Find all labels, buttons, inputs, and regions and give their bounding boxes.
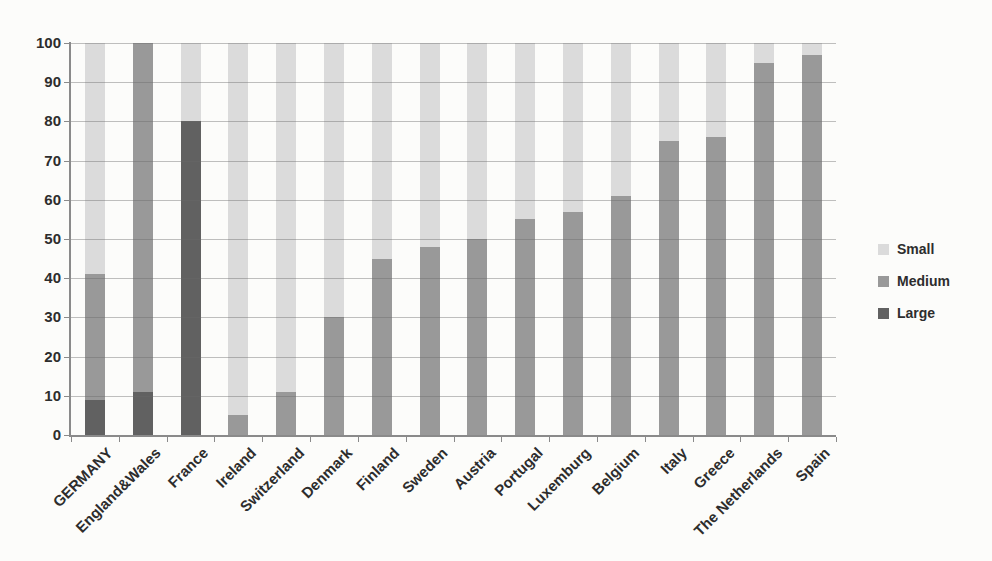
bar-segment-small <box>802 43 822 55</box>
bar-segment-medium <box>802 55 822 435</box>
y-axis-line <box>69 42 71 437</box>
gridline-y-60 <box>71 200 836 201</box>
x-axis-tick <box>167 437 168 442</box>
gridline-y-40 <box>71 278 836 279</box>
x-category-label: The Netherlands <box>690 444 785 539</box>
legend-swatch-icon <box>878 276 889 287</box>
bar-segment-large <box>133 392 153 435</box>
bar-segment-small <box>754 43 774 63</box>
x-axis-tick <box>836 437 837 442</box>
bar-segment-medium <box>659 141 679 435</box>
x-category-label: Italy <box>656 444 689 477</box>
x-axis-tick <box>406 437 407 442</box>
plot-area <box>71 43 836 435</box>
y-axis-tick-label: 70 <box>0 152 61 170</box>
y-axis-tick-label: 30 <box>0 308 61 326</box>
y-axis-tick-label: 80 <box>0 112 61 130</box>
gridline-y-100 <box>71 43 836 44</box>
bar-segment-small <box>372 43 392 259</box>
x-axis-tick <box>788 437 789 442</box>
x-axis-tick <box>597 437 598 442</box>
legend-item-large: Large <box>878 305 950 322</box>
bar-segment-medium <box>515 219 535 435</box>
x-category-label: Denmark <box>298 444 355 501</box>
legend-label: Medium <box>897 273 950 290</box>
x-axis-tick <box>214 437 215 442</box>
y-axis-tick-label: 10 <box>0 387 61 405</box>
bar-segment-small <box>563 43 583 212</box>
y-axis-tick-label: 90 <box>0 73 61 91</box>
bar-segment-medium <box>85 274 105 399</box>
bar-segment-medium <box>467 239 487 435</box>
x-axis-tick <box>645 437 646 442</box>
gridline-y-70 <box>71 161 836 162</box>
bar-segment-small <box>515 43 535 219</box>
x-category-label: Sweden <box>399 444 451 496</box>
bar-segment-small <box>228 43 248 415</box>
stacked-bar-chart: 0102030405060708090100 GERMANYEngland&Wa… <box>0 0 992 561</box>
legend-swatch-icon <box>878 244 889 255</box>
gridline-y-20 <box>71 357 836 358</box>
x-axis-tick <box>358 437 359 442</box>
bar-segment-medium <box>324 317 344 435</box>
bar-segment-small <box>276 43 296 392</box>
bar-segment-medium <box>133 43 153 392</box>
y-axis-tick-label: 60 <box>0 191 61 209</box>
legend-item-medium: Medium <box>878 273 950 290</box>
x-axis-tick <box>693 437 694 442</box>
bar-segment-medium <box>276 392 296 435</box>
bar-segment-small <box>659 43 679 141</box>
bar-segment-small <box>467 43 487 239</box>
y-axis-tick-label: 100 <box>0 34 61 52</box>
legend-swatch-icon <box>878 308 889 319</box>
bar-segment-medium <box>228 415 248 435</box>
x-category-label: France <box>165 444 212 491</box>
bar-segment-medium <box>372 259 392 435</box>
bar-segment-medium <box>611 196 631 435</box>
bar-segment-medium <box>563 212 583 435</box>
x-category-label: Greece <box>689 444 737 492</box>
x-axis-tick <box>549 437 550 442</box>
legend-label: Large <box>897 305 935 322</box>
legend-label: Small <box>897 241 934 258</box>
bar-segment-small <box>706 43 726 137</box>
x-category-label: Belgium <box>588 444 642 498</box>
y-axis-tick-label: 50 <box>0 230 61 248</box>
x-category-label: Ireland <box>213 444 260 491</box>
bar-segment-medium <box>754 63 774 435</box>
chart-legend: SmallMediumLarge <box>878 241 950 337</box>
x-category-label: England&Wales <box>72 444 164 536</box>
x-axis-tick <box>119 437 120 442</box>
x-axis-tick <box>310 437 311 442</box>
x-axis-line <box>69 435 836 437</box>
x-axis-tick <box>740 437 741 442</box>
x-axis-tick <box>71 437 72 442</box>
gridline-y-50 <box>71 239 836 240</box>
y-axis-tick-label: 0 <box>0 426 61 444</box>
bar-segment-large <box>85 400 105 435</box>
gridline-y-30 <box>71 317 836 318</box>
y-axis-tick-label: 20 <box>0 348 61 366</box>
x-axis-tick <box>262 437 263 442</box>
bar-segment-medium <box>420 247 440 435</box>
gridline-y-90 <box>71 82 836 83</box>
y-axis-tick-label: 40 <box>0 269 61 287</box>
bar-segment-small <box>611 43 631 196</box>
bar-segment-medium <box>706 137 726 435</box>
x-axis-tick <box>501 437 502 442</box>
x-category-label: Spain <box>792 444 833 485</box>
x-axis-tick <box>454 437 455 442</box>
x-category-label: Finland <box>353 444 403 494</box>
bar-segment-small <box>420 43 440 247</box>
gridline-y-80 <box>71 121 836 122</box>
bar-segment-small <box>324 43 344 317</box>
legend-item-small: Small <box>878 241 950 258</box>
gridline-y-10 <box>71 396 836 397</box>
